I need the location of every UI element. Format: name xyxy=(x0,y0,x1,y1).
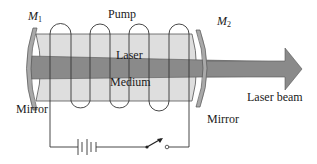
m1-subscript: 1 xyxy=(38,15,42,24)
laser-diagram: Pump Laser Medium M1 M2 Mirror Mirror La… xyxy=(0,0,317,164)
mirror-m2-label: M2 xyxy=(217,15,231,29)
mirror-left-label: Mirror xyxy=(16,103,48,115)
laser-beam-label: Laser beam xyxy=(247,91,303,103)
m2-symbol: M xyxy=(217,14,227,28)
laser-label: Laser xyxy=(116,49,143,61)
m2-subscript: 2 xyxy=(227,20,231,29)
m1-symbol: M xyxy=(28,9,38,23)
laser-diagram-graphic xyxy=(0,0,317,164)
pump-label: Pump xyxy=(108,8,136,20)
switch-icon xyxy=(145,138,168,149)
mirror-m1-label: M1 xyxy=(28,10,42,24)
battery-icon xyxy=(78,139,96,155)
mirror-right-label: Mirror xyxy=(207,113,239,125)
medium-label: Medium xyxy=(110,76,151,88)
